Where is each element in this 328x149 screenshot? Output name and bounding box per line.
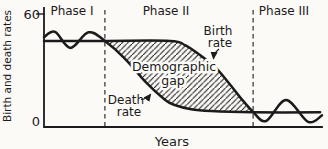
demographic-transition-figure: 60 0 Birth and death rates Years Phase I… (0, 0, 328, 149)
y-axis-title: Birth and death rates (1, 10, 13, 122)
birth-rate-label-line2: rate (208, 36, 232, 50)
phase-3-label: Phase III (259, 4, 309, 18)
phase-1-label: Phase I (50, 4, 93, 18)
x-axis-title: Years (154, 134, 190, 149)
y-tick-label-0: 0 (32, 114, 40, 129)
demographic-transition-chart: 60 0 Birth and death rates Years Phase I… (0, 0, 328, 149)
death-rate-label-line2: rate (117, 105, 141, 119)
y-tick-label-60: 60 (23, 7, 40, 22)
birth-rate-arrow (214, 49, 220, 59)
demographic-gap-label-line2: gap (161, 73, 185, 88)
phase-2-label: Phase II (143, 4, 190, 18)
demographic-gap-label-line1: Demographic (132, 59, 216, 74)
